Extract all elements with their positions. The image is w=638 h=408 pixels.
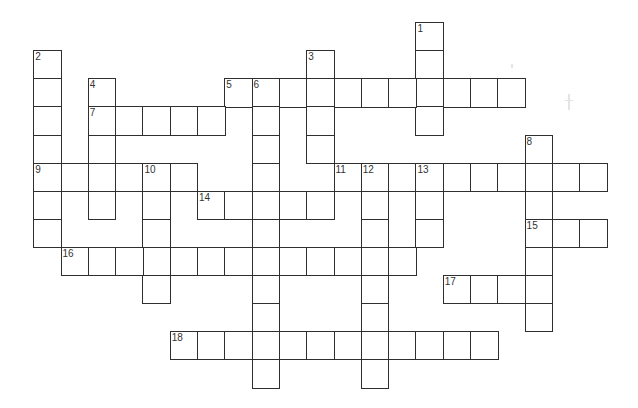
grid-cell[interactable] <box>579 219 608 248</box>
grid-cell[interactable] <box>525 163 554 192</box>
grid-cell[interactable] <box>361 191 390 220</box>
grid-cell[interactable] <box>197 106 226 135</box>
grid-cell[interactable] <box>279 331 308 360</box>
grid-cell[interactable] <box>388 247 417 276</box>
grid-cell[interactable] <box>415 50 444 79</box>
grid-cell[interactable] <box>388 331 417 360</box>
grid-cell[interactable] <box>525 247 554 276</box>
grid-cell[interactable] <box>525 275 554 304</box>
grid-cell[interactable] <box>115 163 144 192</box>
grid-cell[interactable] <box>279 247 308 276</box>
grid-cell[interactable] <box>252 275 281 304</box>
grid-cell[interactable] <box>525 303 554 332</box>
grid-cell[interactable] <box>361 303 390 332</box>
grid-cell[interactable] <box>252 247 281 276</box>
grid-cell[interactable] <box>579 163 608 192</box>
grid-cell[interactable] <box>361 219 390 248</box>
grid-cell[interactable]: 15 <box>525 219 554 248</box>
grid-cell[interactable] <box>33 106 62 135</box>
grid-cell[interactable] <box>142 275 171 304</box>
grid-cell[interactable] <box>33 135 62 164</box>
grid-cell[interactable] <box>443 163 472 192</box>
grid-cell[interactable] <box>33 219 62 248</box>
grid-cell[interactable] <box>334 78 363 107</box>
grid-cell[interactable] <box>279 78 308 107</box>
grid-cell[interactable] <box>142 219 171 248</box>
grid-cell[interactable]: 11 <box>334 163 363 192</box>
grid-cell[interactable] <box>88 247 117 276</box>
grid-cell[interactable] <box>252 303 281 332</box>
grid-cell[interactable] <box>334 247 363 276</box>
grid-cell[interactable] <box>306 78 335 107</box>
grid-cell[interactable] <box>388 78 417 107</box>
grid-cell[interactable] <box>443 78 472 107</box>
grid-cell[interactable] <box>306 331 335 360</box>
grid-cell[interactable] <box>361 247 390 276</box>
grid-cell[interactable] <box>306 106 335 135</box>
grid-cell[interactable] <box>334 331 363 360</box>
grid-cell[interactable] <box>252 135 281 164</box>
grid-cell[interactable] <box>197 247 226 276</box>
grid-cell[interactable]: 2 <box>33 50 62 79</box>
grid-cell[interactable]: 18 <box>170 331 199 360</box>
grid-cell[interactable]: 10 <box>142 163 171 192</box>
grid-cell[interactable]: 12 <box>361 163 390 192</box>
grid-cell[interactable] <box>361 359 390 388</box>
grid-cell[interactable] <box>170 163 199 192</box>
grid-cell[interactable] <box>224 247 253 276</box>
grid-cell[interactable] <box>361 78 390 107</box>
grid-cell[interactable]: 1 <box>415 22 444 51</box>
grid-cell[interactable] <box>443 331 472 360</box>
grid-cell[interactable] <box>306 191 335 220</box>
grid-cell[interactable] <box>470 275 499 304</box>
grid-cell[interactable]: 14 <box>197 191 226 220</box>
grid-cell[interactable] <box>142 247 171 276</box>
grid-cell[interactable] <box>415 191 444 220</box>
grid-cell[interactable] <box>497 275 526 304</box>
grid-cell[interactable] <box>306 135 335 164</box>
grid-cell[interactable] <box>33 191 62 220</box>
grid-cell[interactable] <box>470 331 499 360</box>
grid-cell[interactable]: 4 <box>88 78 117 107</box>
grid-cell[interactable] <box>415 78 444 107</box>
grid-cell[interactable] <box>252 359 281 388</box>
grid-cell[interactable] <box>252 106 281 135</box>
grid-cell[interactable] <box>415 106 444 135</box>
grid-cell[interactable] <box>361 275 390 304</box>
grid-cell[interactable] <box>88 135 117 164</box>
grid-cell[interactable]: 13 <box>415 163 444 192</box>
grid-cell[interactable] <box>252 163 281 192</box>
grid-cell[interactable] <box>470 78 499 107</box>
grid-cell[interactable] <box>497 78 526 107</box>
grid-cell[interactable] <box>279 191 308 220</box>
grid-cell[interactable] <box>170 247 199 276</box>
grid-cell[interactable] <box>361 331 390 360</box>
grid-cell[interactable]: 9 <box>33 163 62 192</box>
grid-cell[interactable] <box>115 106 144 135</box>
grid-cell[interactable] <box>197 331 226 360</box>
grid-cell[interactable] <box>142 106 171 135</box>
grid-cell[interactable]: 3 <box>306 50 335 79</box>
grid-cell[interactable] <box>142 191 171 220</box>
grid-cell[interactable]: 6 <box>252 78 281 107</box>
grid-cell[interactable]: 7 <box>88 106 117 135</box>
grid-cell[interactable] <box>33 78 62 107</box>
grid-cell[interactable] <box>415 331 444 360</box>
grid-cell[interactable] <box>497 163 526 192</box>
grid-cell[interactable]: 17 <box>443 275 472 304</box>
grid-cell[interactable] <box>61 163 90 192</box>
grid-cell[interactable] <box>115 247 144 276</box>
grid-cell[interactable] <box>552 219 581 248</box>
grid-cell[interactable] <box>388 163 417 192</box>
grid-cell[interactable] <box>552 163 581 192</box>
grid-cell[interactable] <box>415 219 444 248</box>
grid-cell[interactable] <box>88 163 117 192</box>
grid-cell[interactable] <box>252 191 281 220</box>
grid-cell[interactable]: 8 <box>525 135 554 164</box>
grid-cell[interactable] <box>470 163 499 192</box>
grid-cell[interactable] <box>224 331 253 360</box>
grid-cell[interactable]: 5 <box>224 78 253 107</box>
grid-cell[interactable] <box>88 191 117 220</box>
grid-cell[interactable] <box>170 106 199 135</box>
grid-cell[interactable] <box>252 331 281 360</box>
